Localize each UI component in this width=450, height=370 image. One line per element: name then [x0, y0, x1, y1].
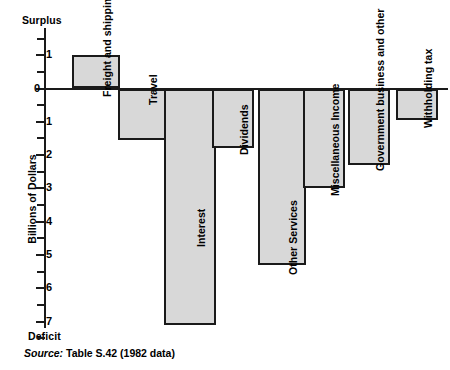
source-text: Table S.42 (1982 data)	[66, 347, 175, 359]
source-prefix: Source:	[24, 347, 63, 359]
bar-label: Dividends	[238, 104, 250, 155]
bar-label: Government business and other	[374, 9, 386, 171]
bar-label: Withholding tax	[422, 49, 434, 128]
bars-layer: Freight and shippingTravelInterestDivide…	[0, 0, 450, 370]
bar-label: Other Services	[287, 200, 299, 275]
bar-label: Miscellaneous Income	[329, 84, 341, 196]
bar-label: Freight and shipping	[101, 0, 113, 97]
bar-chart: Surplus Deficit Billions of Dollars 1012…	[0, 0, 450, 370]
bar	[164, 89, 216, 325]
bar-label: Interest	[195, 209, 207, 247]
bar-label: Travel	[147, 74, 159, 105]
source-caption: Source: Table S.42 (1982 data)	[24, 347, 175, 359]
